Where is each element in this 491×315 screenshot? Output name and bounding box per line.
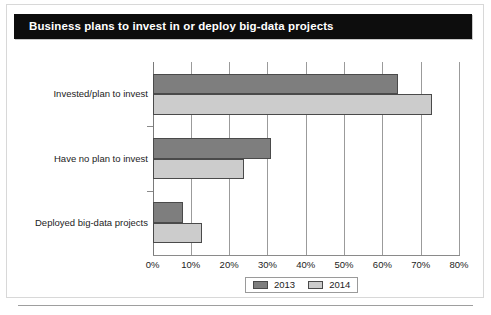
- x-tick-label: 60%: [362, 259, 402, 270]
- legend-item-2013[interactable]: 2013: [253, 280, 295, 290]
- x-tick-label: 0%: [133, 259, 173, 270]
- legend-swatch-icon-2013: [253, 281, 268, 289]
- y-axis-category-labels: Invested/plan to investHave no plan to i…: [4, 0, 148, 315]
- x-tick-label: 40%: [286, 259, 326, 270]
- bottom-divider-rule: [18, 305, 473, 306]
- x-tick-label: 80%: [439, 259, 479, 270]
- bar-chart: Invested/plan to investHave no plan to i…: [0, 0, 491, 315]
- gridline-80pct: [459, 62, 460, 255]
- x-tick-label: 30%: [247, 259, 287, 270]
- legend-label: 2013: [274, 280, 295, 290]
- category-tick: [147, 126, 153, 127]
- legend-item-2014[interactable]: 2014: [308, 280, 350, 290]
- x-tick-label: 20%: [209, 259, 249, 270]
- x-tick-label: 50%: [324, 259, 364, 270]
- gridline-70pct: [421, 62, 422, 255]
- bar-2013-cat2: [153, 202, 184, 223]
- x-tick-label: 10%: [171, 259, 211, 270]
- x-axis-line: [153, 255, 460, 256]
- y-axis-label-cat0: Invested/plan to invest: [8, 88, 148, 99]
- y-axis-label-cat1: Have no plan to invest: [8, 153, 148, 164]
- bar-2014-cat2: [153, 223, 203, 244]
- y-axis-label-cat2: Deployed big-data projects: [8, 217, 148, 228]
- bar-2014-cat1: [153, 159, 245, 180]
- legend-swatch-icon-2014: [308, 281, 323, 289]
- x-tick-label: 70%: [401, 259, 441, 270]
- chart-legend: 20132014: [245, 277, 358, 293]
- bar-2013-cat1: [153, 138, 272, 159]
- legend-label: 2014: [329, 280, 350, 290]
- bar-2013-cat0: [153, 74, 398, 95]
- bar-2014-cat0: [153, 94, 433, 115]
- category-tick: [147, 191, 153, 192]
